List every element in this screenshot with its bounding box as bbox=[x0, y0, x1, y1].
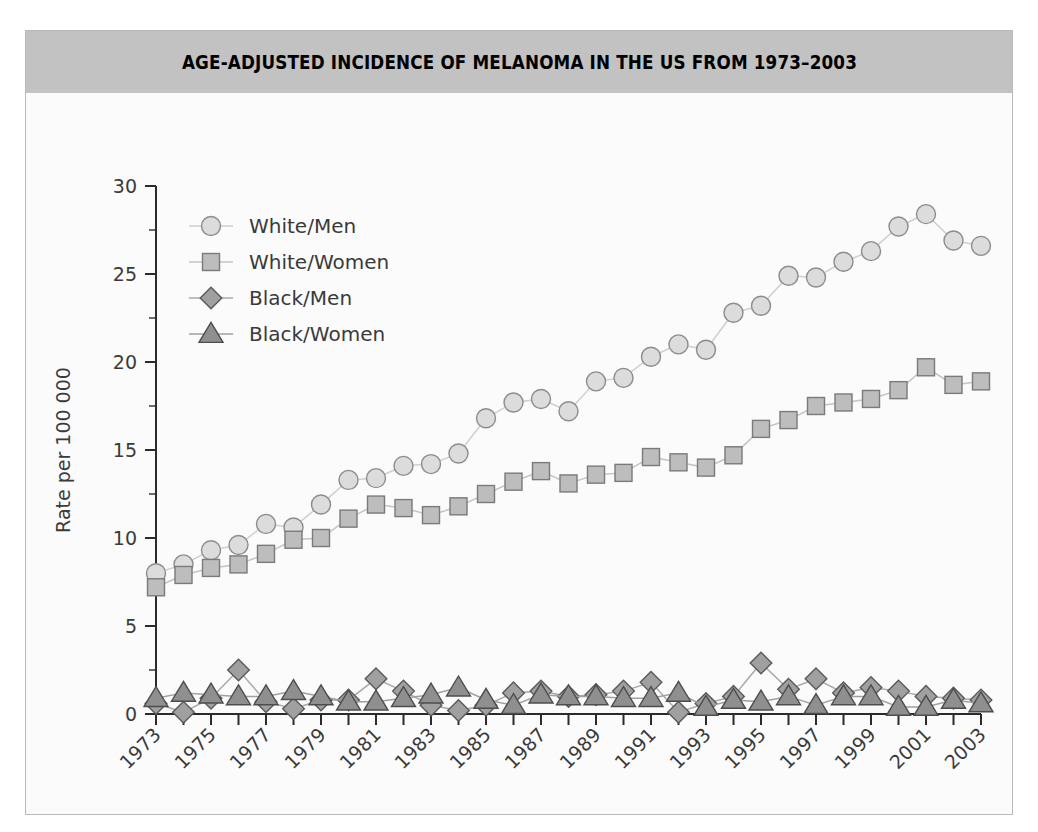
y-tick-label: 15 bbox=[113, 439, 137, 461]
marker-circle bbox=[449, 444, 468, 463]
marker-square bbox=[258, 545, 275, 562]
x-tick-label: 1991 bbox=[610, 723, 660, 773]
legend-label: Black/Men bbox=[249, 286, 352, 310]
marker-square bbox=[863, 390, 880, 407]
marker-circle bbox=[807, 268, 826, 287]
marker-square bbox=[890, 382, 907, 399]
series-group bbox=[144, 205, 993, 723]
marker-diamond bbox=[448, 700, 470, 722]
y-axis-title: Rate per 100 000 bbox=[52, 367, 74, 533]
title-banner: AGE-ADJUSTED INCIDENCE OF MELANOMA IN TH… bbox=[26, 31, 1012, 93]
marker-square bbox=[203, 559, 220, 576]
marker-circle bbox=[642, 347, 661, 366]
marker-square bbox=[368, 496, 385, 513]
y-tick-label: 0 bbox=[125, 703, 137, 725]
x-tick-label: 1995 bbox=[720, 723, 770, 773]
marker-triangle bbox=[282, 680, 306, 700]
marker-circle bbox=[202, 217, 221, 236]
x-tick-label: 1993 bbox=[665, 723, 715, 773]
marker-square bbox=[478, 486, 495, 503]
marker-square bbox=[588, 466, 605, 483]
x-tick-label: 1975 bbox=[170, 723, 220, 773]
legend-label: White/Men bbox=[249, 214, 356, 238]
x-tick-label: 1983 bbox=[390, 723, 440, 773]
marker-square bbox=[560, 475, 577, 492]
marker-square bbox=[423, 507, 440, 524]
chart-legend: White/MenWhite/WomenBlack/MenBlack/Women bbox=[189, 214, 389, 346]
marker-triangle bbox=[804, 694, 828, 714]
marker-square bbox=[203, 254, 220, 271]
marker-circle bbox=[477, 409, 496, 428]
marker-square bbox=[533, 463, 550, 480]
marker-circle bbox=[532, 389, 551, 408]
plot-area: 051015202530 197319751977197919811983198… bbox=[26, 93, 1012, 814]
marker-diamond bbox=[805, 668, 827, 690]
marker-circle bbox=[944, 231, 963, 250]
marker-square bbox=[340, 510, 357, 527]
marker-diamond bbox=[365, 668, 387, 690]
marker-triangle bbox=[447, 676, 471, 696]
marker-circle bbox=[257, 514, 276, 533]
marker-square bbox=[643, 449, 660, 466]
marker-square bbox=[753, 420, 770, 437]
marker-square bbox=[230, 556, 247, 573]
marker-square bbox=[918, 359, 935, 376]
marker-circle bbox=[862, 242, 881, 261]
y-tick-label: 20 bbox=[113, 351, 137, 373]
marker-square bbox=[148, 579, 165, 596]
x-tick-label: 1987 bbox=[500, 723, 550, 773]
marker-square bbox=[835, 394, 852, 411]
marker-triangle bbox=[474, 688, 498, 708]
marker-circle bbox=[614, 368, 633, 387]
marker-circle bbox=[422, 455, 441, 474]
x-tick-label: 1999 bbox=[830, 723, 880, 773]
marker-circle bbox=[779, 266, 798, 285]
x-tick-label: 1989 bbox=[555, 723, 605, 773]
page-title: AGE-ADJUSTED INCIDENCE OF MELANOMA IN TH… bbox=[181, 51, 856, 74]
marker-triangle bbox=[199, 322, 223, 342]
legend-label: Black/Women bbox=[249, 322, 385, 346]
x-tick-label: 1997 bbox=[775, 723, 825, 773]
marker-circle bbox=[394, 456, 413, 475]
marker-circle bbox=[724, 303, 743, 322]
marker-square bbox=[808, 398, 825, 415]
x-tick-label: 1985 bbox=[445, 723, 495, 773]
x-tick-label: 2001 bbox=[885, 723, 935, 773]
marker-square bbox=[780, 412, 797, 429]
line-chart: 051015202530 197319751977197919811983198… bbox=[26, 93, 1012, 814]
marker-square bbox=[285, 531, 302, 548]
x-tick-label: 1973 bbox=[115, 723, 165, 773]
marker-circle bbox=[339, 470, 358, 489]
marker-circle bbox=[229, 536, 248, 555]
marker-circle bbox=[972, 236, 991, 255]
marker-square bbox=[945, 376, 962, 393]
marker-circle bbox=[559, 402, 578, 421]
x-tick-label: 1979 bbox=[280, 723, 330, 773]
marker-circle bbox=[752, 296, 771, 315]
x-tick-label: 2003 bbox=[940, 723, 990, 773]
marker-diamond bbox=[173, 701, 195, 723]
marker-circle bbox=[917, 205, 936, 224]
marker-triangle bbox=[227, 685, 251, 705]
y-tick-label: 25 bbox=[113, 263, 137, 285]
x-tick-label: 1977 bbox=[225, 723, 275, 773]
marker-circle bbox=[587, 372, 606, 391]
marker-triangle bbox=[667, 681, 691, 701]
marker-diamond bbox=[283, 698, 305, 720]
marker-circle bbox=[669, 335, 688, 354]
marker-square bbox=[725, 447, 742, 464]
marker-diamond bbox=[200, 287, 222, 309]
y-tick-label: 30 bbox=[113, 175, 137, 197]
marker-square bbox=[973, 373, 990, 390]
marker-circle bbox=[889, 217, 908, 236]
marker-square bbox=[313, 530, 330, 547]
marker-square bbox=[395, 500, 412, 517]
marker-circle bbox=[834, 252, 853, 271]
marker-circle bbox=[202, 541, 221, 560]
screenshot-root: AGE-ADJUSTED INCIDENCE OF MELANOMA IN TH… bbox=[0, 0, 1038, 832]
y-tick-label: 10 bbox=[113, 527, 137, 549]
marker-square bbox=[615, 464, 632, 481]
marker-circle bbox=[504, 393, 523, 412]
marker-square bbox=[505, 473, 522, 490]
y-axis: 051015202530 bbox=[113, 175, 156, 725]
